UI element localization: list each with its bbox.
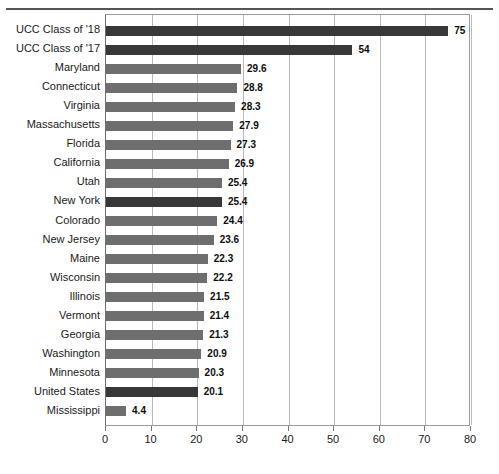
bar [106,102,235,112]
gridline-30 [243,15,244,425]
category-label: Maryland [0,62,100,73]
category-label: Maine [0,253,100,264]
bar-value-label: 23.6 [220,235,239,245]
category-label: Florida [0,138,100,149]
plot-area: 755429.628.828.327.927.326.925.425.424.4… [105,14,470,426]
category-label: UCC Class of '18 [0,24,100,35]
category-label: New York [0,195,100,206]
bar-value-label: 26.9 [235,159,254,169]
bar-value-label: 24.4 [223,216,242,226]
bar-value-label: 25.4 [228,197,247,207]
bar-value-label: 20.3 [205,368,224,378]
gridline-80 [471,15,472,425]
bar [106,216,217,226]
axis-tick [151,426,152,431]
bar [106,26,448,36]
axis-tick [379,426,380,431]
category-label: Minnesota [0,367,100,378]
bar [106,387,198,397]
bar-value-label: 21.5 [210,292,229,302]
bar [106,140,231,150]
category-label: Washington [0,348,100,359]
axis-tick-label: 10 [145,434,157,445]
bar-value-label: 22.2 [213,273,232,283]
header-divider [6,8,493,10]
axis-tick [333,426,334,431]
bar-value-label: 28.3 [241,102,260,112]
category-label: Utah [0,176,100,187]
bar [106,197,222,207]
axis-tick [424,426,425,431]
bar-value-label: 21.3 [209,330,228,340]
category-label: Massachusetts [0,119,100,130]
axis-tick [470,426,471,431]
category-label: United States [0,386,100,397]
bar [106,311,204,321]
category-label: Connecticut [0,81,100,92]
bar-value-label: 28.8 [243,83,262,93]
axis-tick-label: 40 [281,434,293,445]
bar [106,83,237,93]
bar [106,159,229,169]
bar [106,121,233,131]
axis-tick-label: 20 [190,434,202,445]
category-label: Vermont [0,310,100,321]
chart-figure: UCC Class of '18UCC Class of '17Maryland… [0,0,499,474]
category-label: Georgia [0,329,100,340]
gridline-40 [289,15,290,425]
bar-chart: UCC Class of '18UCC Class of '17Maryland… [0,14,499,426]
axis-tick-label: 80 [464,434,476,445]
bar-value-label: 20.9 [207,349,226,359]
gridline-70 [425,15,426,425]
axis-tick [288,426,289,431]
category-label: Illinois [0,291,100,302]
category-label: New Jersey [0,234,100,245]
bar-value-label: 22.3 [214,254,233,264]
axis-tick-label: 70 [418,434,430,445]
bar-value-label: 75 [454,26,465,36]
category-label: Virginia [0,100,100,111]
bar-value-label: 54 [358,45,369,55]
bar-value-label: 21.4 [210,311,229,321]
gridline-50 [334,15,335,425]
bar [106,235,214,245]
bar [106,45,352,55]
bar-value-label: 29.6 [247,64,266,74]
axis-tick [196,426,197,431]
axis-tick [242,426,243,431]
bar [106,330,203,340]
category-label: Wisconsin [0,272,100,283]
bar-value-label: 27.3 [237,140,256,150]
gridline-60 [380,15,381,425]
axis-tick [105,426,106,431]
axis-tick-label: 0 [102,434,108,445]
bar [106,64,241,74]
category-label: California [0,157,100,168]
bar [106,292,204,302]
bar [106,406,126,416]
bar [106,254,208,264]
category-axis-labels: UCC Class of '18UCC Class of '17Maryland… [0,14,104,426]
bar-value-label: 20.1 [204,387,223,397]
bar [106,273,207,283]
category-label: Mississippi [0,405,100,416]
bar [106,178,222,188]
bar [106,349,201,359]
category-label: UCC Class of '17 [0,43,100,54]
value-axis: 01020304050607080 [105,426,470,456]
bar [106,368,199,378]
bar-value-label: 27.9 [239,121,258,131]
category-label: Colorado [0,215,100,226]
bar-value-label: 4.4 [132,406,146,416]
bar-value-label: 25.4 [228,178,247,188]
axis-tick-label: 50 [327,434,339,445]
axis-tick-label: 30 [236,434,248,445]
axis-tick-label: 60 [373,434,385,445]
